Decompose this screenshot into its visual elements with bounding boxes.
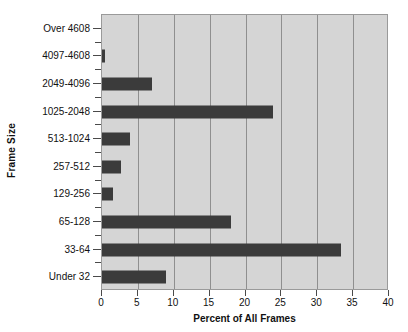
y-axis-tick-major bbox=[93, 166, 101, 167]
y-axis-tick-label: 1025-2048 bbox=[42, 105, 90, 116]
bar bbox=[102, 271, 166, 284]
y-axis-tick-minor bbox=[95, 124, 101, 125]
y-axis-tick-minor bbox=[95, 152, 101, 153]
y-axis-tick-label: 513-1024 bbox=[48, 133, 90, 144]
y-axis-tick-labels: Under 3233-6465-128129-256257-512513-102… bbox=[22, 14, 96, 290]
x-axis-tick-label: 20 bbox=[239, 297, 250, 308]
y-axis-tick-minor bbox=[95, 97, 101, 98]
y-axis-tick-major bbox=[93, 28, 101, 29]
y-axis-tick-label: 65-128 bbox=[59, 216, 90, 227]
bar bbox=[102, 105, 273, 118]
bar-chart-figure: Frame Size Under 3233-6465-128129-256257… bbox=[0, 0, 408, 332]
x-axis-title: Percent of All Frames bbox=[101, 313, 388, 324]
y-axis-title-text: Frame Size bbox=[6, 123, 17, 178]
y-axis-tick-major bbox=[93, 138, 101, 139]
bar bbox=[102, 216, 231, 229]
y-axis-tick-minor bbox=[95, 262, 101, 263]
y-axis-tick-major bbox=[93, 55, 101, 56]
x-axis-tick bbox=[101, 290, 102, 296]
x-axis-tick-label: 25 bbox=[275, 297, 286, 308]
gridline-vertical bbox=[353, 15, 354, 289]
y-axis-tick-major bbox=[93, 83, 101, 84]
plot-area bbox=[101, 14, 388, 290]
y-axis-tick-label: 257-512 bbox=[53, 160, 90, 171]
x-axis-tick bbox=[316, 290, 317, 296]
y-axis-tick-major bbox=[93, 249, 101, 250]
y-axis-tick-label: 129-256 bbox=[53, 188, 90, 199]
y-axis-tick-minor bbox=[95, 69, 101, 70]
x-axis-tick bbox=[137, 290, 138, 296]
y-axis-tick-minor bbox=[95, 207, 101, 208]
bar bbox=[102, 133, 130, 146]
y-axis-tick-major bbox=[93, 276, 101, 277]
x-axis-tick bbox=[352, 290, 353, 296]
y-axis-tick-minor bbox=[95, 235, 101, 236]
bar bbox=[102, 188, 113, 201]
y-axis-tick-minor bbox=[95, 42, 101, 43]
x-axis-tick-label: 15 bbox=[203, 297, 214, 308]
x-axis-tick-label: 40 bbox=[382, 297, 393, 308]
bar bbox=[102, 160, 121, 173]
x-axis-tick bbox=[280, 290, 281, 296]
bar bbox=[102, 50, 105, 63]
x-axis-tick-label: 30 bbox=[311, 297, 322, 308]
bar bbox=[102, 78, 152, 91]
y-axis-title: Frame Size bbox=[0, 0, 22, 300]
y-axis-tick-major bbox=[93, 111, 101, 112]
y-axis-tick-label: 2049-4096 bbox=[42, 78, 90, 89]
x-axis-tick bbox=[245, 290, 246, 296]
y-axis-tick-label: Over 4608 bbox=[43, 22, 90, 33]
x-axis-tick-label: 0 bbox=[98, 297, 104, 308]
x-axis-tick bbox=[209, 290, 210, 296]
y-axis-tick-label: 33-64 bbox=[64, 243, 90, 254]
y-axis-tick-label: 4097-4608 bbox=[42, 50, 90, 61]
y-axis-tick-major bbox=[93, 193, 101, 194]
bar bbox=[102, 243, 341, 256]
x-axis-tick-label: 35 bbox=[347, 297, 358, 308]
x-axis-tick-label: 5 bbox=[134, 297, 140, 308]
x-axis-tick-label: 10 bbox=[167, 297, 178, 308]
y-axis-tick-minor bbox=[95, 180, 101, 181]
y-axis-tick-label: Under 32 bbox=[49, 271, 90, 282]
x-axis-tick bbox=[173, 290, 174, 296]
x-axis-tick bbox=[388, 290, 389, 296]
y-axis-tick-major bbox=[93, 221, 101, 222]
